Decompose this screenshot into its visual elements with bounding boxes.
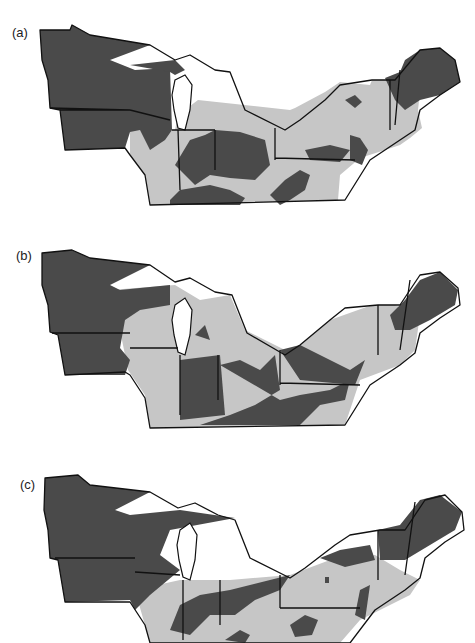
map-panel-c: (c) [0, 440, 475, 643]
region-map [0, 0, 475, 220]
region-map [0, 440, 475, 643]
region-map [0, 220, 475, 440]
map-panel-a: (a) [0, 0, 475, 220]
map-panel-b: (b) [0, 220, 475, 440]
